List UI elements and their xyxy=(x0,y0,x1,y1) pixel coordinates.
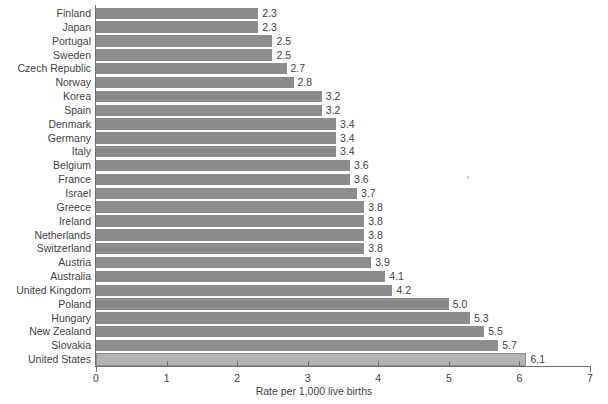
bar xyxy=(96,188,357,199)
x-tick-mark xyxy=(308,361,309,367)
category-label: Austria xyxy=(58,255,91,270)
category-label: Germany xyxy=(48,131,91,146)
bar-row: Switzerland3.8 xyxy=(0,241,608,256)
bar-value-label: 3.8 xyxy=(368,214,383,229)
bar-row: Portugal2.5 xyxy=(0,34,608,49)
bar-row: Finland2.3 xyxy=(0,6,608,21)
bar-row: United States6.1 xyxy=(0,352,608,367)
bar-value-label: 3.8 xyxy=(368,200,383,215)
bar-row: Spain3.2 xyxy=(0,103,608,118)
bar-value-label: 3.8 xyxy=(368,228,383,243)
bar xyxy=(96,243,364,254)
bar-value-label: 5.3 xyxy=(474,311,489,326)
bar xyxy=(96,215,364,226)
category-label: Australia xyxy=(50,269,91,284)
category-label: Italy xyxy=(72,144,91,159)
bar-row: New Zealand5.5 xyxy=(0,324,608,339)
x-tick-mark xyxy=(167,361,168,367)
category-label: Korea xyxy=(63,89,91,104)
bar xyxy=(96,63,287,74)
bar-value-label: 3.7 xyxy=(361,186,376,201)
bar-value-label: 3.8 xyxy=(368,241,383,256)
bar-row: Greece3.8 xyxy=(0,200,608,215)
bar-row: Ireland3.8 xyxy=(0,214,608,229)
bar xyxy=(96,298,449,309)
bar-value-label: 2.3 xyxy=(262,20,277,35)
bar-row: Japan2.3 xyxy=(0,20,608,35)
bar-row: Korea3.2 xyxy=(0,89,608,104)
bar-value-label: 3.6 xyxy=(354,172,369,187)
x-tick-label: 2 xyxy=(234,372,240,384)
bar xyxy=(96,8,258,19)
x-tick-mark xyxy=(519,361,520,367)
category-label: United Kingdom xyxy=(16,283,91,298)
bar-value-label: 2.7 xyxy=(291,61,306,76)
bar xyxy=(96,201,364,212)
x-tick-label: 3 xyxy=(305,372,311,384)
bar-row: Slovakia5.7 xyxy=(0,338,608,353)
bar-value-label: 6.1 xyxy=(530,352,545,367)
bar-value-label: 5.5 xyxy=(488,324,503,339)
bar xyxy=(96,340,498,351)
x-tick-mark xyxy=(237,361,238,367)
category-label: Japan xyxy=(62,20,91,35)
bar-value-label: 5.7 xyxy=(502,338,517,353)
category-label: Hungary xyxy=(51,311,91,326)
bar-value-label: 3.4 xyxy=(340,144,355,159)
category-label: United States xyxy=(28,352,91,367)
bar-value-label: 2.8 xyxy=(298,75,313,90)
bar-row: France3.6 xyxy=(0,172,608,187)
x-axis-title-text: Rate per 1,000 live births xyxy=(256,385,373,397)
category-label: Czech Republic xyxy=(17,61,91,76)
category-label: Portugal xyxy=(52,34,91,49)
category-label: France xyxy=(58,172,91,187)
bar xyxy=(96,285,392,296)
bar-value-label: 3.4 xyxy=(340,131,355,146)
category-label: Switzerland xyxy=(37,241,91,256)
bar-value-label: 4.2 xyxy=(396,283,411,298)
bar-value-label: 3.2 xyxy=(326,89,341,104)
x-tick-label: 7 xyxy=(587,372,593,384)
x-tick-label: 5 xyxy=(446,372,452,384)
bar-value-label: 3.4 xyxy=(340,117,355,132)
bar xyxy=(96,271,385,282)
bar-row: Netherlands3.8 xyxy=(0,228,608,243)
bar xyxy=(96,312,470,323)
bar xyxy=(96,229,364,240)
category-label: Israel xyxy=(65,186,91,201)
bar-value-label: 3.9 xyxy=(375,255,390,270)
bar xyxy=(96,105,322,116)
category-label: Netherlands xyxy=(34,228,91,243)
bar-value-label: 3.6 xyxy=(354,158,369,173)
bar xyxy=(96,21,258,32)
category-label: Spain xyxy=(64,103,91,118)
bar-row: Austria3.9 xyxy=(0,255,608,270)
bar xyxy=(96,160,350,171)
bar xyxy=(96,353,526,365)
bar-row: Sweden2.5 xyxy=(0,48,608,63)
bar-value-label: 2.5 xyxy=(276,48,291,63)
x-tick-mark xyxy=(449,361,450,367)
bar xyxy=(96,49,272,60)
x-axis-line xyxy=(95,366,591,367)
category-label: Belgium xyxy=(53,158,91,173)
bar-row: Poland5.0 xyxy=(0,297,608,312)
bar xyxy=(96,35,272,46)
category-label: Sweden xyxy=(53,48,91,63)
bar xyxy=(96,174,350,185)
bar xyxy=(96,132,336,143)
bar-row: Hungary5.3 xyxy=(0,311,608,326)
bar xyxy=(96,257,371,268)
bar-row: Norway2.8 xyxy=(0,75,608,90)
category-label: New Zealand xyxy=(29,324,91,339)
bar-value-label: 2.5 xyxy=(276,34,291,49)
x-tick-label: 6 xyxy=(517,372,523,384)
x-tick-label: 0 xyxy=(93,372,99,384)
bar-value-label: 5.0 xyxy=(453,297,468,312)
category-label: Denmark xyxy=(48,117,91,132)
infant-mortality-bar-chart: Finland2.3Japan2.3Portugal2.5Sweden2.5Cz… xyxy=(0,0,608,404)
x-tick-label: 4 xyxy=(375,372,381,384)
bar-row: Israel3.7 xyxy=(0,186,608,201)
x-axis-title: Rate per 1,000 live births xyxy=(0,385,608,397)
category-label: Poland xyxy=(58,297,91,312)
